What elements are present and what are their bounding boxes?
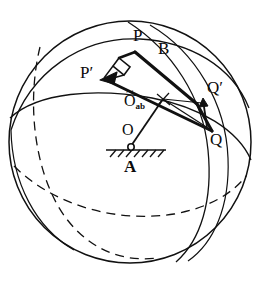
label-o-ab-base-wrap: ~ O	[124, 93, 136, 109]
sphere-diagram-svg	[0, 0, 264, 282]
rigid-link-p-corner	[119, 52, 135, 58]
great-circle-arc-back-dashed-1	[34, 47, 158, 259]
figure-container: P B P′ Q′ Q O A ~ O ab	[0, 0, 264, 282]
label-o-ab-subscript: ab	[136, 101, 146, 111]
label-q: Q	[210, 131, 222, 148]
label-p-prime: P′	[80, 64, 93, 81]
tilde-icon: ~	[126, 85, 133, 98]
label-q-prime: Q′	[207, 79, 223, 96]
arrowhead-pprime	[100, 72, 117, 84]
great-circle-arc-left-lower	[11, 130, 74, 250]
label-o: O	[122, 122, 134, 138]
label-o-ab: ~ O ab	[124, 93, 145, 109]
support-hatching	[110, 150, 164, 157]
label-b: B	[158, 40, 169, 57]
label-a: A	[124, 158, 136, 175]
label-p: P	[133, 27, 142, 44]
pivot-joint-o	[128, 144, 134, 150]
